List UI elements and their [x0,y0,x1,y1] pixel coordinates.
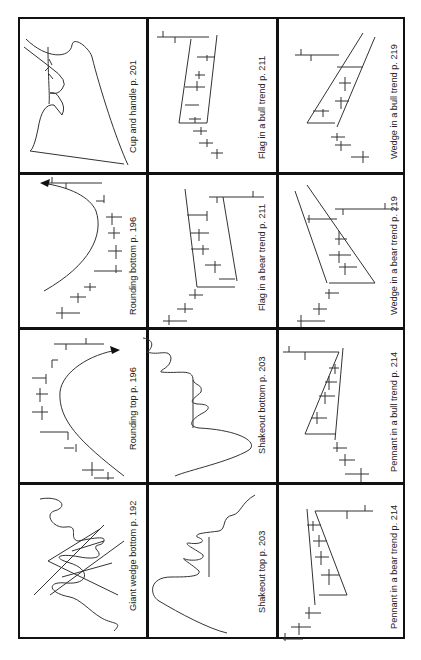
cell-rounding-top: Rounding top p. 196 [20,330,146,483]
pattern-label: Rounding bottom p. 196 [128,217,138,315]
wedge-bear-sketch [279,175,407,328]
pattern-label: Pennant in a bear trend p. 214 [389,505,399,629]
pattern-label: Shakeout top p. 203 [257,531,267,613]
pattern-label: Pennant in a bull trend p. 214 [389,352,399,472]
pattern-label: Flag in a bull trend p. 211 [257,56,267,159]
cell-shakeout-top: Shakeout top p. 203 [149,485,276,638]
pennant-bear-sketch [279,485,407,638]
chart-pattern-grid: Cup and handle p. 201 Flag in a bull tre… [18,17,405,639]
pennant-bull-sketch [279,330,407,483]
cell-wedge-bear: Wedge in a bear trend p. 219 [279,175,407,328]
cell-pennant-bear: Pennant in a bear trend p. 214 [279,485,407,638]
cell-rounding-bottom: Rounding bottom p. 196 [20,175,146,328]
cell-cup-and-handle: Cup and handle p. 201 [20,19,146,172]
pattern-label: Shakeout bottom p. 203 [257,356,267,454]
cell-wedge-bull: Wedge in a bull trend p. 219 [279,19,407,172]
pattern-label: Flag in a bear trend p. 211 [257,204,267,311]
cell-shakeout-bottom: Shakeout bottom p. 203 [149,330,276,483]
pattern-label: Wedge in a bear trend p. 219 [389,196,399,315]
cell-giant-wedge-bottom: Giant wedge bottom p. 192 [20,485,146,638]
cell-pennant-bull: Pennant in a bull trend p. 214 [279,330,407,483]
cell-flag-bull: Flag in a bull trend p. 211 [149,19,276,172]
pattern-label: Wedge in a bull trend p. 219 [389,44,399,159]
pattern-label: Giant wedge bottom p. 192 [128,501,138,611]
pattern-label: Rounding top p. 196 [128,367,138,450]
pattern-label: Cup and handle p. 201 [128,60,138,153]
cell-flag-bear: Flag in a bear trend p. 211 [149,175,276,328]
wedge-bull-sketch [279,19,407,172]
